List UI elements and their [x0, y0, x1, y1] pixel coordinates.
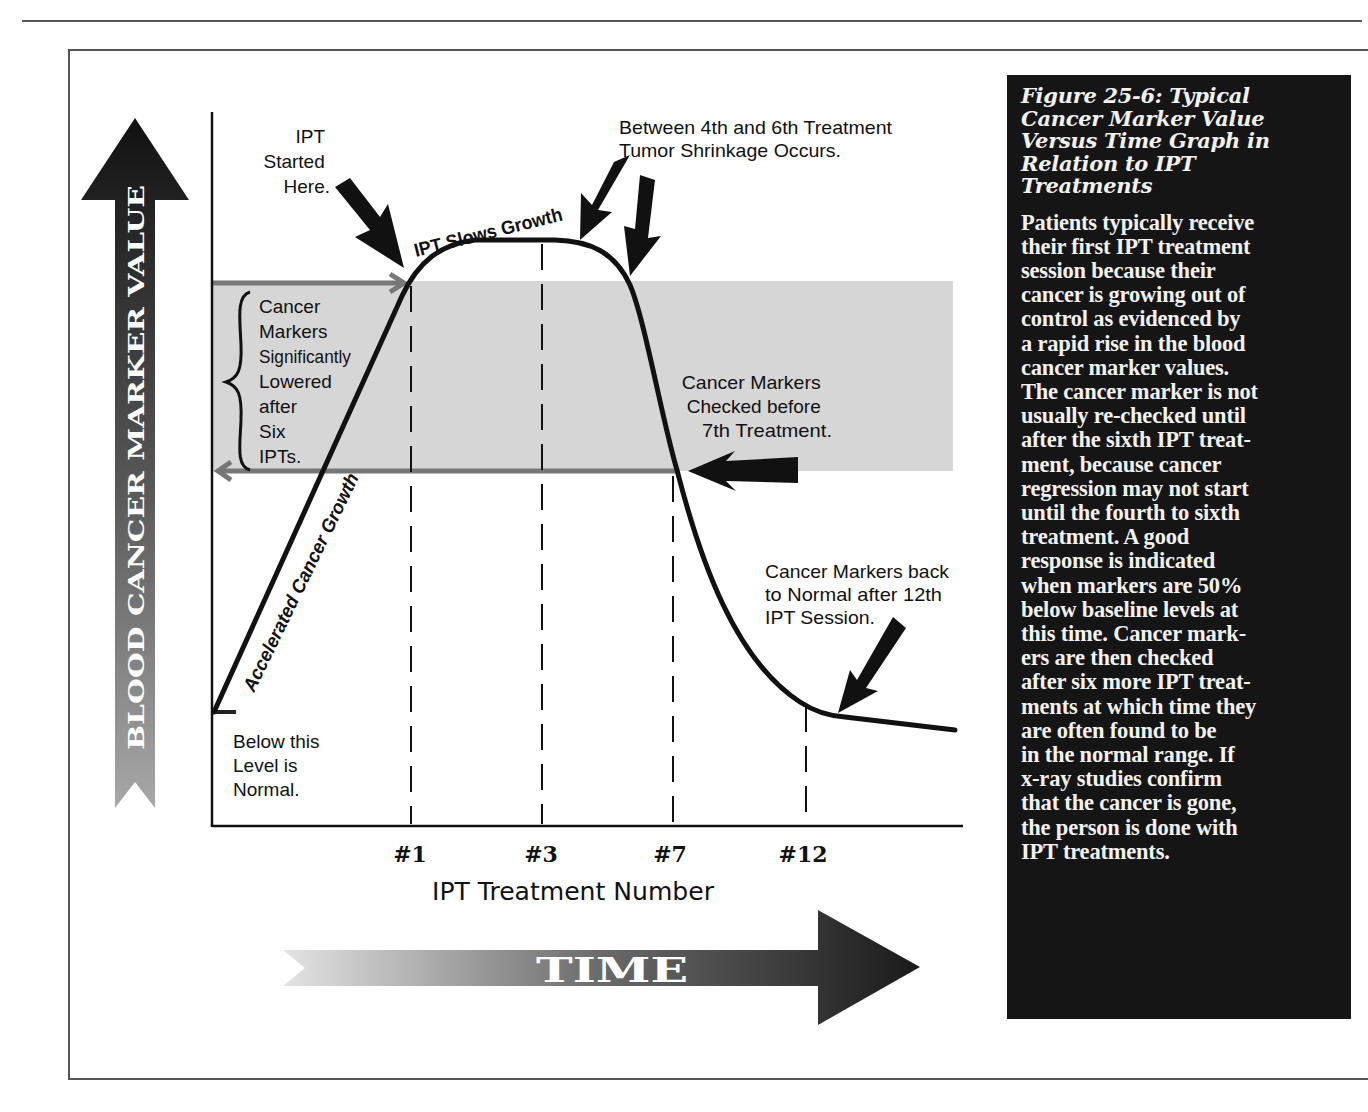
figure-title-line: Versus Time Graph in: [1021, 130, 1337, 153]
shrinkage-arrow-1-icon: [580, 155, 630, 240]
figure-title-line: Cancer Marker Value: [1021, 108, 1337, 131]
figure-title-line: Treatments: [1021, 175, 1337, 198]
y-axis-arrow-label: BLOOD CANCER MARKER VALUE: [122, 185, 149, 750]
x-tick-3: #3: [524, 841, 558, 867]
shrinkage-arrow-2-icon: [624, 175, 661, 276]
figure-title-line: Relation to IPT: [1021, 153, 1337, 176]
normal-after-arrow-icon: [838, 617, 906, 713]
caption-panel: Figure 25-6: Typical Cancer Marker Value…: [1007, 75, 1351, 1019]
below-normal-label: Below this Level is Normal.: [233, 731, 325, 800]
x-axis-label: IPT Treatment Number: [432, 877, 715, 906]
checked-label: Cancer Markers Checked before 7th Treatm…: [682, 372, 832, 441]
accelerated-growth-label: Accelerated Cancer Growth: [238, 470, 363, 696]
figure-caption-body: Patients typically receive their first I…: [1021, 211, 1337, 864]
shrinkage-label: Between 4th and 6th Treatment Tumor Shri…: [619, 117, 897, 161]
normal-after-label: Cancer Markers back to Normal after 12th…: [765, 561, 954, 628]
ipt-started-label: IPT Started Here.: [263, 126, 330, 197]
figure-title-line: Figure 25-6: Typical: [1021, 85, 1337, 108]
ipt-started-arrow-icon: [335, 178, 404, 268]
x-tick-1: #1: [393, 841, 427, 867]
x-axis-arrow-label: TIME: [536, 950, 688, 990]
figure-title: Figure 25-6: Typical Cancer Marker Value…: [1021, 85, 1337, 198]
x-axis-arrow: TIME: [283, 910, 920, 1025]
x-tick-7: #7: [653, 841, 687, 867]
y-axis-arrow: BLOOD CANCER MARKER VALUE: [81, 118, 189, 808]
x-tick-12: #12: [778, 841, 827, 867]
